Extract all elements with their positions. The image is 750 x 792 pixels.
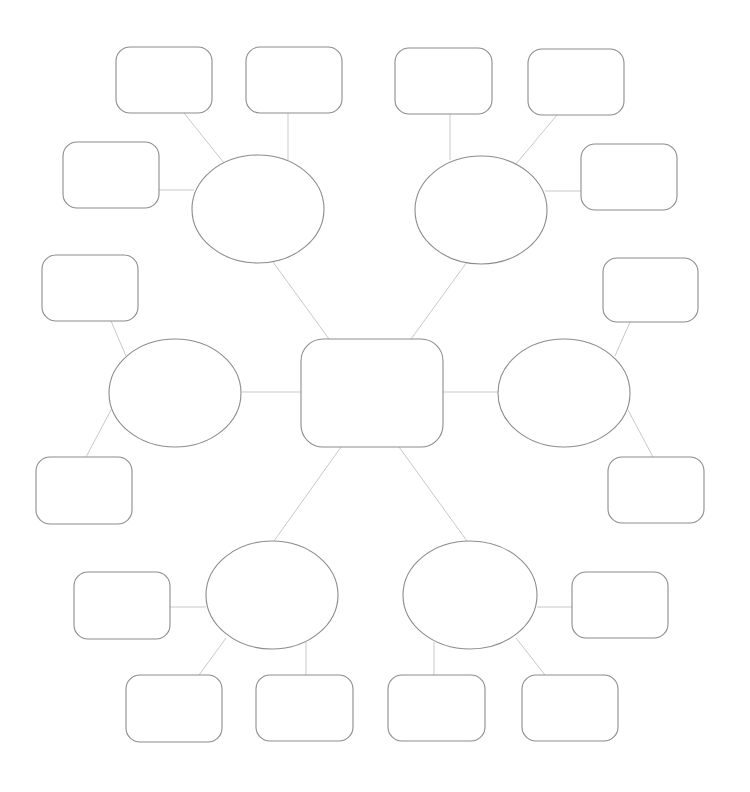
- leaf-bl-3-box-shape[interactable]: [256, 675, 353, 741]
- leaf-br-3-box-shape[interactable]: [522, 675, 618, 741]
- leaf-bl-1-box[interactable]: [74, 572, 170, 639]
- leaf-tl-3-box[interactable]: [63, 142, 159, 208]
- leaf-l-1-box-shape[interactable]: [42, 255, 138, 321]
- branch-left-ellipse[interactable]: [109, 339, 241, 447]
- leaf-tl-3-box-shape[interactable]: [63, 142, 159, 208]
- leaf-tl-2-box-shape[interactable]: [246, 47, 342, 113]
- leaf-l-2-box[interactable]: [36, 457, 132, 524]
- central-topic-box[interactable]: [301, 339, 443, 447]
- branch-bottom-right-ellipse-shape[interactable]: [403, 541, 537, 649]
- connector-line: [199, 638, 226, 675]
- leaf-r-1-box-shape[interactable]: [603, 258, 698, 322]
- leaf-tl-1-box-shape[interactable]: [116, 47, 212, 113]
- leaf-l-1-box[interactable]: [42, 255, 138, 321]
- connector-line: [86, 410, 111, 457]
- branch-bottom-left-ellipse-shape[interactable]: [206, 541, 338, 649]
- connector-line: [628, 410, 653, 457]
- branch-top-right-ellipse-shape[interactable]: [415, 156, 547, 264]
- leaf-tl-1-box[interactable]: [116, 47, 212, 113]
- leaf-bl-2-box-shape[interactable]: [126, 675, 222, 742]
- connector-line: [411, 262, 467, 339]
- leaf-br-1-box[interactable]: [572, 572, 668, 638]
- shapes-layer: [36, 47, 704, 742]
- leaf-r-2-box-shape[interactable]: [608, 457, 704, 523]
- leaf-r-2-box[interactable]: [608, 457, 704, 523]
- mind-map-canvas: [0, 0, 750, 792]
- branch-bottom-left-ellipse[interactable]: [206, 541, 338, 649]
- branch-top-left-ellipse[interactable]: [192, 155, 324, 263]
- leaf-bl-2-box[interactable]: [126, 675, 222, 742]
- leaf-bl-1-box-shape[interactable]: [74, 572, 170, 639]
- leaf-tr-3-box-shape[interactable]: [581, 144, 677, 210]
- branch-right-ellipse-shape[interactable]: [498, 339, 630, 447]
- leaf-l-2-box-shape[interactable]: [36, 457, 132, 524]
- connector-line: [184, 113, 224, 163]
- central-topic-box-shape[interactable]: [301, 339, 443, 447]
- branch-top-right-ellipse[interactable]: [415, 156, 547, 264]
- leaf-br-1-box-shape[interactable]: [572, 572, 668, 638]
- leaf-tr-2-box[interactable]: [528, 49, 624, 115]
- leaf-br-3-box[interactable]: [522, 675, 618, 741]
- branch-right-ellipse[interactable]: [498, 339, 630, 447]
- branch-left-ellipse-shape[interactable]: [109, 339, 241, 447]
- connector-line: [516, 115, 557, 164]
- leaf-tr-2-box-shape[interactable]: [528, 49, 624, 115]
- leaf-tr-1-box-shape[interactable]: [395, 48, 492, 114]
- leaf-r-1-box[interactable]: [603, 258, 698, 322]
- connector-line: [111, 321, 126, 356]
- connector-line: [273, 262, 329, 339]
- leaf-bl-3-box[interactable]: [256, 675, 353, 741]
- leaf-tr-3-box[interactable]: [581, 144, 677, 210]
- connector-line: [516, 638, 545, 675]
- connector-line: [399, 447, 467, 541]
- leaf-tr-1-box[interactable]: [395, 48, 492, 114]
- connector-line: [274, 447, 341, 541]
- connector-line: [615, 322, 630, 356]
- leaf-tl-2-box[interactable]: [246, 47, 342, 113]
- branch-bottom-right-ellipse[interactable]: [403, 541, 537, 649]
- branch-top-left-ellipse-shape[interactable]: [192, 155, 324, 263]
- leaf-br-2-box[interactable]: [388, 675, 485, 741]
- leaf-br-2-box-shape[interactable]: [388, 675, 485, 741]
